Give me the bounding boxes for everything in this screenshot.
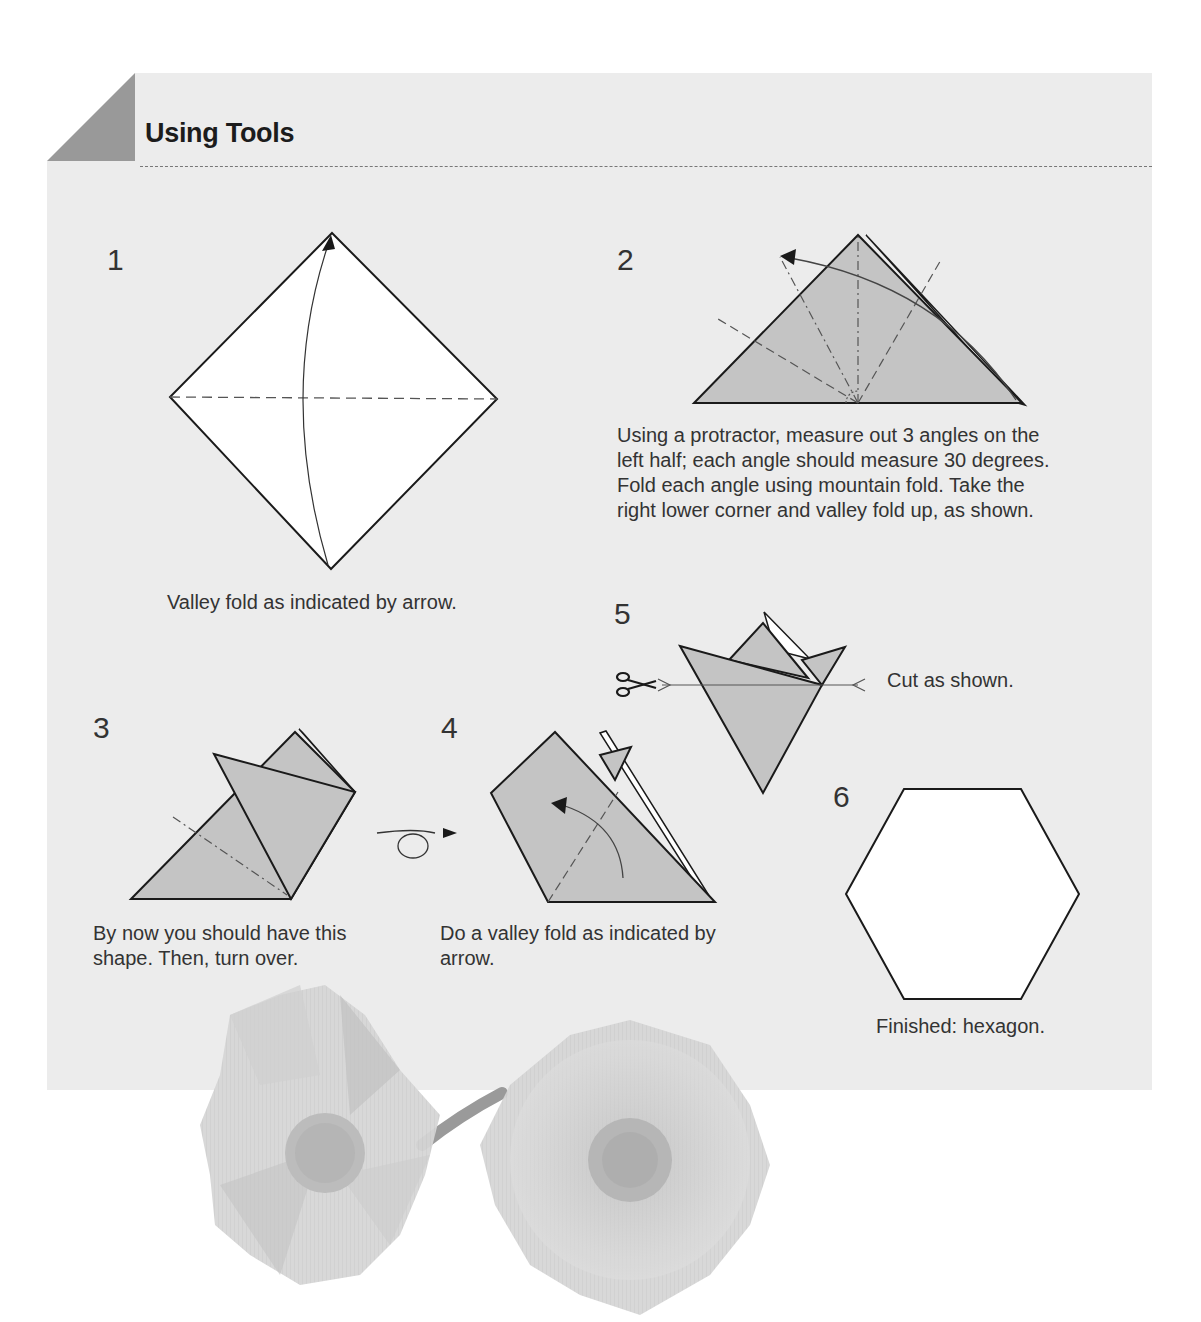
paper-flowers-photo [190, 975, 820, 1315]
step-4-number: 4 [441, 711, 458, 745]
title-divider [140, 166, 1152, 167]
step-6-caption: Finished: hexagon. [876, 1014, 1045, 1039]
turn-over-icon [375, 818, 465, 863]
step-3-number: 3 [93, 711, 110, 745]
step-2-diagram [680, 225, 1040, 415]
step-2-number: 2 [617, 243, 634, 277]
step-6-hexagon [840, 785, 1090, 1005]
step-1-number: 1 [107, 243, 124, 277]
step-3-caption: By now you should have this shape. Then,… [93, 921, 393, 971]
section-title: Using Tools [145, 118, 294, 149]
step-2-caption: Using a protractor, measure out 3 angles… [617, 423, 1067, 523]
step-4-diagram [485, 725, 725, 910]
step-4-caption: Do a valley fold as indicated by arrow. [440, 921, 750, 971]
left-flower [200, 985, 440, 1285]
step-5-caption: Cut as shown. [887, 668, 1014, 693]
step-1-diagram [160, 225, 510, 585]
scissors-icon [617, 673, 656, 696]
right-flower [480, 1020, 770, 1315]
folded-corner-icon [47, 73, 135, 161]
step-1-caption: Valley fold as indicated by arrow. [167, 590, 457, 615]
step-3-diagram [125, 725, 365, 905]
